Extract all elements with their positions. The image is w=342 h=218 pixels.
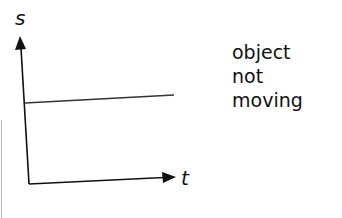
x-axis-arrow-icon [162, 172, 176, 183]
y-axis [15, 36, 29, 184]
caption-line-3: moving [232, 88, 303, 112]
caption: object not moving [232, 40, 303, 112]
caption-line-1: object [232, 40, 303, 64]
constant-displacement-line [25, 95, 174, 103]
y-axis-arrow-icon [15, 36, 26, 50]
x-axis-label: t [181, 168, 189, 188]
y-axis-label: s [15, 8, 25, 28]
caption-line-2: not [232, 64, 303, 88]
x-axis [29, 172, 176, 184]
